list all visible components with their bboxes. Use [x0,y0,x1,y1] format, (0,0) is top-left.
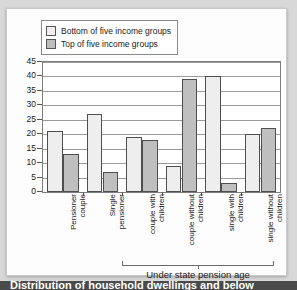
x-axis-label-line: children [236,194,245,258]
y-axis-tick-label: 10 [27,158,36,166]
bar-top-4 [221,183,237,192]
chart-legend: Bottom of five income groups Top of five… [41,20,178,55]
legend-swatch-bottom-icon [46,26,56,36]
bar-bottom-5 [245,134,261,192]
y-axis-tick-label: 0 [31,187,36,195]
x-axis-label-line: children [197,194,206,258]
x-axis-label-line: couple [78,194,87,258]
bar-bottom-4 [205,76,221,192]
bar-bottom-2 [126,137,142,192]
bar-bottom-0 [47,131,63,192]
bracket-tick-right [273,261,274,266]
under-state-pension-age-bracket [122,261,274,269]
bracket-label: Under state pension age [122,269,274,280]
y-axis-tick-label: 20 [27,129,36,137]
y-axis: 051015202530354045 [7,55,42,199]
y-axis-tick-label: 35 [27,86,36,94]
caption-text: Distribution of household dwellings and … [10,281,254,290]
legend-item-bottom: Bottom of five income groups [46,25,171,37]
y-axis-tick-label: 25 [27,115,36,123]
chart-card: Bottom of five income groups Top of five… [6,8,287,276]
x-axis-label-4: single withchildren [228,194,240,258]
x-axis-labels: PensionercoupleSinglepensionercouple wit… [42,194,281,258]
x-axis-label-2: couple withchildren [149,194,161,258]
y-axis-tick-label: 45 [27,57,36,65]
bar-top-2 [142,140,158,192]
x-axis-label-5: single withoutchildren [267,194,279,258]
y-axis-tick-label: 30 [27,100,36,108]
plot-area [42,61,281,193]
y-axis-tick-label: 15 [27,144,36,152]
bar-top-0 [63,154,79,192]
x-axis-label-line: children [276,194,285,258]
y-axis-tick-label: 5 [31,173,36,181]
bar-top-1 [103,172,119,192]
legend-label-top: Top of five income groups [61,39,158,49]
bars-layer [43,62,280,192]
bar-bottom-1 [87,114,103,192]
bar-bottom-3 [166,166,182,192]
x-axis-label-line: pensioner [118,194,127,258]
bar-top-3 [182,79,198,192]
bar-top-5 [261,128,277,192]
x-axis-label-1: Singlepensioner [109,194,121,258]
caption-strip: Distribution of household dwellings and … [0,281,297,290]
x-axis-label-line: children [157,194,166,258]
x-axis-label-0: Pensionercouple [70,194,82,258]
legend-label-bottom: Bottom of five income groups [61,26,171,36]
legend-item-top: Top of five income groups [46,38,171,50]
legend-swatch-top-icon [46,39,56,49]
screenshot-root: Bottom of five income groups Top of five… [0,0,297,290]
x-axis-label-3: couple withoutchildren [188,194,200,258]
y-axis-tick-label: 40 [27,71,36,79]
